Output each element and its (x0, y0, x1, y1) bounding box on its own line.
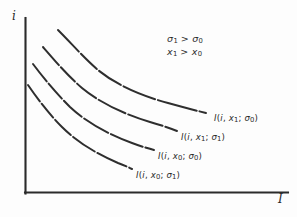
curve-label-function: I (181, 132, 184, 142)
curve-label-arg2-sub: 1 (201, 135, 205, 143)
curve-label-i-x0-sigma0: I(i, x0; σ0) (158, 151, 202, 162)
curve-label-function: I (214, 113, 217, 123)
curve-label-arg2-sub: 1 (234, 116, 238, 124)
curve-i-x1-sigma1 (43, 47, 177, 131)
curve-label-param-sub: 1 (172, 173, 176, 181)
annotation-sigma-operator: > (178, 33, 192, 44)
curve-label-arg2-sub: 0 (156, 173, 160, 181)
curve-label-i-x1-sigma0: I(i, x1; σ0) (214, 113, 258, 124)
curve-label-param-sub: 1 (217, 135, 221, 143)
curve-label-arg1: i (164, 151, 167, 161)
curve-label-param-sub: 0 (250, 116, 254, 124)
curve-label-i-x1-sigma1: I(i, x1; σ1) (181, 132, 225, 143)
curve-label-function: I (158, 151, 161, 161)
annotation-x-operator: > (177, 46, 191, 57)
annotation-sigma-inequality: σ1>σ0 (167, 33, 203, 45)
curve-label-arg1: i (220, 113, 223, 123)
annotation-sigma-rhs-sub: 0 (199, 37, 203, 45)
figure-canvas (0, 0, 297, 217)
annotation-x-rhs-sub: 0 (198, 50, 202, 58)
curve-label-i-x0-sigma1: I(i, x0; σ1) (136, 170, 180, 181)
annotation-x-inequality: x1>x0 (167, 46, 202, 58)
curve-i-x0-sigma0 (33, 64, 154, 150)
curve-label-function: I (136, 170, 139, 180)
indifference-curve-figure: i I σ1>σ0 x1>x0 I(i, x1; σ0) I(i, x1; σ1… (0, 0, 297, 217)
curve-i-x0-sigma1 (28, 85, 132, 169)
x-axis-label: I (278, 192, 283, 206)
curve-label-param-sub: 0 (194, 154, 198, 162)
curve-label-arg2-sub: 0 (178, 154, 182, 162)
curve-label-arg1: i (142, 170, 145, 180)
curve-label-arg1: i (187, 132, 190, 142)
y-axis-label: i (12, 9, 16, 23)
